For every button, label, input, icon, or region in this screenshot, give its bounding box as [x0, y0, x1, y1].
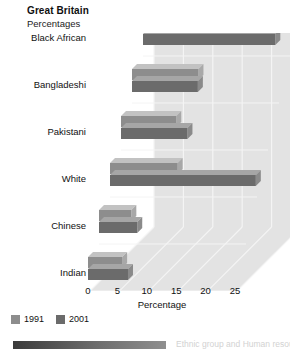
bar-top-face — [121, 111, 181, 116]
bar-top-face — [143, 33, 280, 34]
legend-swatch-1991 — [11, 315, 20, 324]
bar-top-face — [110, 158, 183, 163]
x-tick-10: 10 — [142, 285, 153, 297]
category-label-indian: Indian — [2, 267, 86, 278]
bar-top-face — [88, 252, 127, 257]
bar-bangladeshi-2001 — [132, 76, 203, 92]
category-axis-labels: Black CaribbeanBlack AfricanBangladeshiP… — [0, 33, 86, 291]
category-label-black-african: Black African — [2, 32, 86, 43]
legend-label-2001: 2001 — [69, 314, 89, 324]
x-tick-15: 15 — [171, 285, 182, 297]
bar-black-african-2001 — [143, 33, 280, 45]
category-label-chinese: Chinese — [2, 220, 86, 231]
category-label-bangladeshi: Bangladeshi — [2, 79, 86, 90]
x-axis-title: Percentage — [0, 299, 290, 310]
bar-front-face — [110, 175, 256, 186]
bar-front-face — [143, 34, 275, 45]
x-tick-0: 0 — [85, 285, 90, 297]
bar-front-face — [88, 269, 128, 280]
bar-chinese-2001 — [99, 217, 142, 233]
bar-front-face — [121, 128, 187, 139]
category-label-white: White — [2, 173, 86, 184]
bar-front-face — [99, 222, 137, 233]
chart-legend: 19912001 — [11, 314, 95, 324]
footer-gradient-bar — [13, 341, 166, 349]
category-label-pakistani: Pakistani — [2, 126, 86, 137]
bar-top-face — [132, 64, 203, 69]
footer-strip: Ethnic group and Human resources in... — [0, 336, 290, 349]
bar-top-face — [88, 264, 133, 269]
footer-caption: Ethnic group and Human resources in... — [176, 340, 290, 349]
x-tick-5: 5 — [115, 285, 120, 297]
chart-subtitle: Percentages — [27, 17, 277, 30]
bar-top-face — [110, 170, 261, 175]
x-tick-20: 20 — [200, 285, 211, 297]
x-tick-25: 25 — [230, 285, 241, 297]
page-title: Great Britain — [27, 5, 277, 17]
x-axis-title-text: Percentage — [138, 299, 187, 310]
bar-top-face — [99, 205, 136, 210]
legend-swatch-2001 — [56, 315, 65, 324]
bar-white-2001 — [110, 170, 261, 186]
chart-header: Great Britain Percentages — [27, 5, 277, 30]
bar-indian-2001 — [88, 264, 133, 280]
bar-top-face — [99, 217, 142, 222]
legend-item-1991[interactable]: 1991 — [11, 314, 44, 324]
bar-top-face — [121, 123, 192, 128]
legend-item-2001[interactable]: 2001 — [56, 314, 89, 324]
bar-pakistani-2001 — [121, 123, 192, 139]
bar-top-face — [132, 76, 203, 81]
bar-front-face — [132, 81, 198, 92]
legend-label-1991: 1991 — [24, 314, 44, 324]
